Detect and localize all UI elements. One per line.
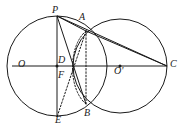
point-label-O: O [18, 59, 25, 69]
point-label-P: P [52, 5, 58, 15]
segment-AC [86, 31, 167, 66]
point-label-E: E [55, 115, 61, 125]
point-label-C: C [170, 59, 177, 69]
point-label-O-prime: O' [114, 66, 123, 76]
point-label-D: D [58, 55, 65, 65]
point-label-B: B [84, 108, 90, 118]
geometry-figure: P A O D F O' C B E [0, 0, 184, 129]
point-label-A: A [79, 12, 85, 22]
point-label-F: F [58, 70, 64, 80]
geometry-canvas [0, 0, 184, 129]
